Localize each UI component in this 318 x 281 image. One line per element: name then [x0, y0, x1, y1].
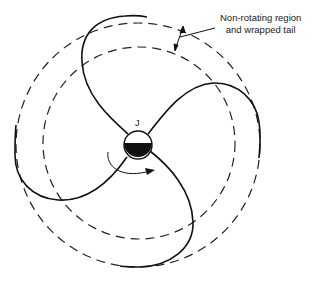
annotation-label: Non-rotating region and wrapped tail: [220, 12, 301, 36]
spiral-arm-bottom: [120, 151, 193, 267]
spiral-arm-right: [148, 83, 260, 158]
spiral-vortex-diagram: Non-rotating region and wrapped tail J: [0, 0, 318, 281]
annotation-line-1: Non-rotating region: [220, 12, 301, 24]
annotation-line-2: and wrapped tail: [220, 24, 301, 36]
core-label: J: [135, 118, 140, 128]
core-circle: [124, 131, 152, 159]
spiral-arm-top: [82, 16, 147, 134]
region-width-arrow-icon: [174, 26, 215, 51]
spiral-arm-left: [15, 125, 127, 200]
diagram-svg: [0, 0, 318, 281]
